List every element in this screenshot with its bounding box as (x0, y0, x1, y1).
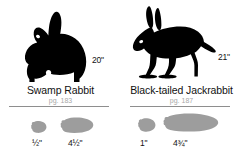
rabbit-sitting-silhouette (16, 8, 96, 84)
silhouette-block: 20" (0, 0, 121, 84)
body-height-label: 20" (92, 55, 104, 65)
track-size-label: 1" (140, 138, 147, 148)
front-paw-track-icon (137, 114, 159, 136)
tracks-block: 1" 4¾" (121, 110, 242, 153)
panel-divider (9, 106, 109, 107)
species-panel-black-tailed-jackrabbit: 21" Black-tailed Jackrabbit pg. 187 (121, 0, 242, 153)
species-name: Swamp Rabbit (0, 84, 121, 96)
hind-paw-track-icon (162, 112, 224, 136)
body-height-label: 21" (218, 52, 230, 62)
silhouette-block: 21" (121, 0, 242, 84)
species-panel-swamp-rabbit: 20" Swamp Rabbit pg. 183 (0, 0, 121, 153)
track-size-label: 4¾" (173, 138, 187, 148)
jackrabbit-standing-silhouette (127, 4, 223, 84)
panel-divider (130, 106, 230, 107)
hind-paw-track-icon (59, 114, 97, 136)
track-size-label: ½" (32, 138, 42, 148)
page-reference[interactable]: pg. 183 (0, 96, 121, 105)
species-name-block: Black-tailed Jackrabbit pg. 187 (121, 84, 242, 105)
page-reference[interactable]: pg. 187 (121, 96, 242, 105)
track-size-label: 4½" (68, 138, 82, 148)
species-name: Black-tailed Jackrabbit (121, 84, 242, 96)
front-paw-track-icon (30, 116, 50, 136)
tracks-block: ½" 4½" (0, 110, 121, 153)
species-comparison-guide: 20" Swamp Rabbit pg. 183 (0, 0, 242, 153)
species-name-block: Swamp Rabbit pg. 183 (0, 84, 121, 105)
